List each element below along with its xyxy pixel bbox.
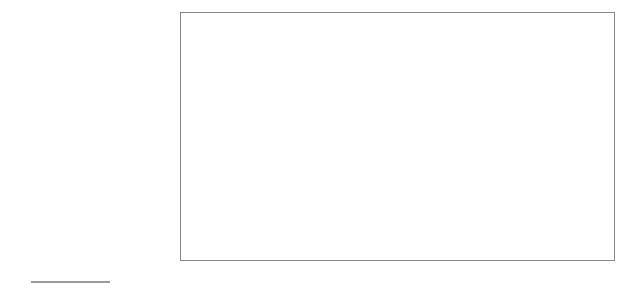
stacked-area-chart bbox=[0, 0, 631, 294]
plot-area bbox=[180, 12, 615, 261]
